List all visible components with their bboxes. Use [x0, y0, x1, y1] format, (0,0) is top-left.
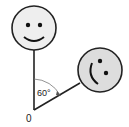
angle-label: 60°: [37, 88, 51, 98]
angle-arrowhead: [56, 91, 61, 96]
upright-smiley-icon: [12, 6, 56, 50]
origin-label: 0: [26, 113, 32, 124]
rotated-smiley-icon: [78, 48, 122, 92]
pendulum-diagram: 60° 0: [0, 0, 129, 127]
